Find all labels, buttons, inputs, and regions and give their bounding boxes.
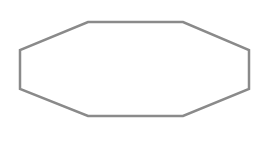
- diagram-svg: [0, 0, 271, 146]
- diagram-canvas: [0, 0, 271, 146]
- octagon-shape: [20, 22, 249, 116]
